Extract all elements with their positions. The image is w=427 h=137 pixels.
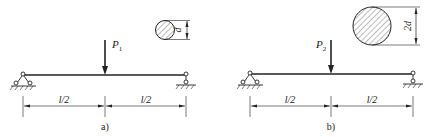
load-label: P2 [315, 38, 327, 53]
diagram-canvas: P1 d l/2 l/2 a) [0, 0, 427, 137]
section-dimension-label: 2d [402, 20, 413, 31]
panel-caption: b) [327, 121, 335, 133]
span-label-left: l/2 [285, 94, 296, 105]
span-label-left: l/2 [59, 94, 70, 105]
load-arrow-icon [328, 40, 334, 74]
span-label-right: l/2 [141, 94, 152, 105]
span-dimension [23, 96, 186, 117]
load-label: P1 [111, 38, 123, 53]
panel-caption: a) [101, 121, 109, 133]
panel-b: P2 2d l/2 l/2 b) [237, 7, 423, 133]
panel-a: P1 d l/2 l/2 a) [10, 21, 196, 134]
span-dimension [250, 96, 413, 117]
load-arrow-icon [102, 40, 108, 75]
span-label-right: l/2 [367, 94, 378, 105]
